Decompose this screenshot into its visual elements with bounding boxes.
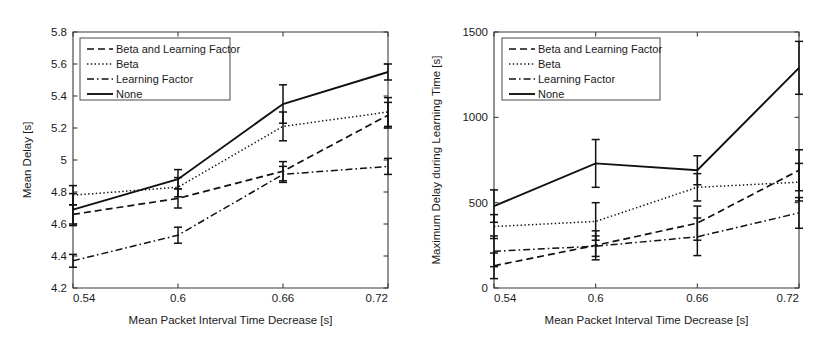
series-line	[73, 166, 388, 260]
x-tick-label: 0.6	[588, 292, 604, 304]
series-line	[73, 115, 388, 214]
x-axis-title: Mean Packet Interval Time Decrease [s]	[129, 314, 333, 326]
error-bar	[490, 190, 498, 222]
y-tick-label: 5.4	[51, 90, 68, 102]
legend-label: Beta	[116, 58, 140, 70]
legend-label: Learning Factor	[116, 73, 193, 85]
y-tick-label: 5.8	[51, 26, 67, 38]
y-axis-title: Maximum Delay during Learning Time [s]	[430, 56, 442, 265]
series-line	[494, 213, 799, 251]
x-tick-label: 0.72	[366, 292, 388, 304]
y-axis-title: Mean Delay [s]	[21, 122, 33, 199]
series-line	[494, 170, 799, 266]
x-tick-label: 0.66	[686, 292, 708, 304]
legend-label: None	[538, 88, 564, 100]
error-bar	[795, 41, 803, 94]
y-tick-label: 4.8	[51, 186, 67, 198]
legend-label: Learning Factor	[538, 73, 615, 85]
chart-legend: Beta and Learning FactorBetaLearning Fac…	[502, 38, 662, 100]
y-tick-label: 500	[469, 197, 488, 209]
chart-legend: Beta and Learning FactorBetaLearning Fac…	[80, 38, 240, 100]
legend-label: Beta	[538, 58, 562, 70]
y-tick-label: 4.2	[51, 282, 67, 294]
y-tick-label: 5.2	[51, 122, 67, 134]
y-tick-label: 1500	[462, 26, 488, 38]
x-tick-label: 0.54	[73, 292, 96, 304]
y-tick-label: 0	[482, 282, 488, 294]
legend-label: Beta and Learning Factor	[116, 43, 240, 55]
figure-pair: 4.24.44.64.855.25.45.65.80.540.60.660.72…	[0, 0, 828, 348]
y-tick-label: 1000	[462, 111, 488, 123]
error-bar	[279, 166, 287, 182]
chart-panel-left: 4.24.44.64.855.25.45.65.80.540.60.660.72…	[0, 0, 414, 348]
y-tick-label: 5	[61, 154, 67, 166]
x-tick-label: 0.6	[170, 292, 186, 304]
y-tick-label: 4.4	[51, 250, 68, 262]
y-tick-label: 4.6	[51, 218, 67, 230]
series-line	[494, 182, 799, 226]
y-tick-label: 5.6	[51, 58, 67, 70]
chart-panel-right: 0500100015000.540.60.660.72Mean Packet I…	[414, 0, 828, 348]
left-chart-svg: 4.24.44.64.855.25.45.65.80.540.60.660.72…	[0, 0, 414, 348]
legend-label: Beta and Learning Factor	[538, 43, 662, 55]
x-tick-label: 0.66	[272, 292, 294, 304]
right-chart-svg: 0500100015000.540.60.660.72Mean Packet I…	[414, 0, 828, 348]
series-line	[73, 112, 388, 195]
x-tick-label: 0.72	[777, 292, 799, 304]
legend-label: None	[116, 88, 142, 100]
x-tick-label: 0.54	[494, 292, 517, 304]
x-axis-title: Mean Packet Interval Time Decrease [s]	[545, 314, 749, 326]
